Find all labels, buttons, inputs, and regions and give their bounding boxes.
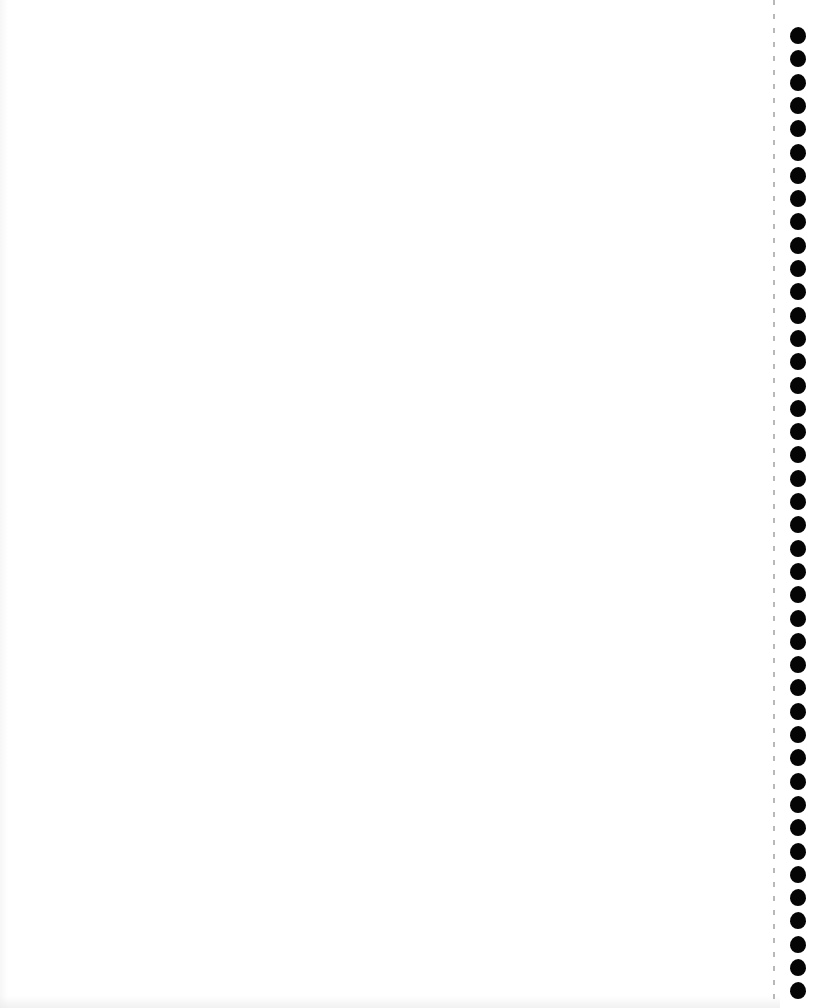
- binding-hole: [790, 843, 806, 860]
- spiral-binding-holes: [790, 0, 814, 1008]
- binding-hole: [790, 377, 806, 394]
- perforation-line: [773, 0, 775, 1008]
- binding-hole: [790, 610, 806, 627]
- binding-hole: [790, 912, 806, 929]
- binding-hole: [790, 237, 806, 254]
- binding-hole: [790, 307, 806, 324]
- binding-hole: [790, 190, 806, 207]
- binding-hole: [790, 144, 806, 161]
- binding-hole: [790, 936, 806, 953]
- binding-hole: [790, 353, 806, 370]
- binding-hole: [790, 423, 806, 440]
- binding-hole: [790, 213, 806, 230]
- binding-hole: [790, 563, 806, 580]
- binding-hole: [790, 260, 806, 277]
- binding-hole: [790, 74, 806, 91]
- binding-hole: [790, 97, 806, 114]
- binding-hole: [790, 493, 806, 510]
- binding-hole: [790, 866, 806, 883]
- binding-hole: [790, 516, 806, 533]
- binding-hole: [790, 50, 806, 67]
- binding-hole: [790, 120, 806, 137]
- binding-hole: [790, 819, 806, 836]
- binding-hole: [790, 446, 806, 463]
- binding-hole: [790, 982, 806, 999]
- binding-hole: [790, 679, 806, 696]
- binding-hole: [790, 749, 806, 766]
- scan-shadow: [0, 996, 780, 1008]
- binding-hole: [790, 167, 806, 184]
- binding-hole: [790, 656, 806, 673]
- binding-hole: [790, 773, 806, 790]
- binding-hole: [790, 796, 806, 813]
- binding-hole: [790, 726, 806, 743]
- binding-hole: [790, 27, 806, 44]
- notebook-page: [0, 0, 817, 1008]
- binding-hole: [790, 330, 806, 347]
- binding-hole: [790, 283, 806, 300]
- binding-hole: [790, 959, 806, 976]
- binding-hole: [790, 586, 806, 603]
- binding-hole: [790, 470, 806, 487]
- binding-hole: [790, 633, 806, 650]
- binding-hole: [790, 540, 806, 557]
- binding-hole: [790, 400, 806, 417]
- binding-hole: [790, 889, 806, 906]
- binding-hole: [790, 703, 806, 720]
